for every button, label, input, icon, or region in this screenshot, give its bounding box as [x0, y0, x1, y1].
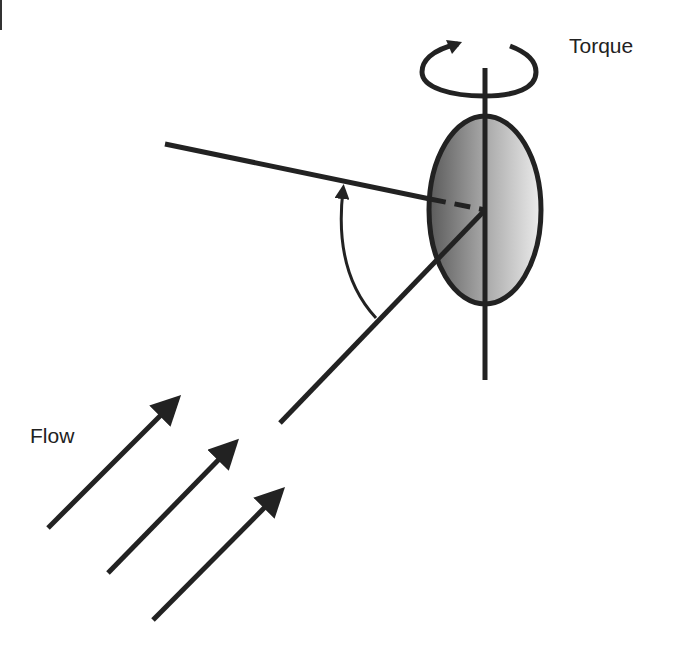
flow-arrow-icon: [108, 446, 232, 573]
reference-line: [165, 144, 430, 199]
flow-arrow-icon: [48, 402, 174, 528]
torque-label: Torque: [569, 34, 633, 58]
flow-label: Flow: [30, 424, 74, 448]
angle-arc-icon: [341, 190, 376, 318]
flow-torque-diagram: [0, 0, 677, 647]
flow-arrow-icon: [153, 494, 278, 620]
torque-rotation-arrow-icon: [422, 40, 536, 96]
flow-direction-line: [280, 210, 485, 423]
